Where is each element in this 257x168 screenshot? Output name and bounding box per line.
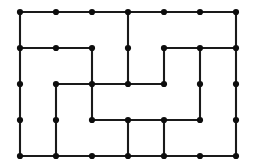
graph-vertex — [161, 45, 167, 51]
graph-vertex — [125, 45, 131, 51]
graph-vertex — [233, 45, 239, 51]
graph-vertex — [233, 153, 239, 159]
graph-vertex — [233, 9, 239, 15]
graph-vertex — [17, 9, 23, 15]
graph-vertex — [53, 9, 59, 15]
graph-vertex — [53, 117, 59, 123]
graph-vertex — [53, 153, 59, 159]
graph-vertex — [17, 117, 23, 123]
graph-vertex — [161, 9, 167, 15]
graph-vertex — [161, 153, 167, 159]
graph-vertex — [233, 117, 239, 123]
graph-vertex — [161, 117, 167, 123]
grid-graph-svg — [0, 0, 257, 168]
graph-vertex — [125, 153, 131, 159]
graph-vertex — [17, 81, 23, 87]
graph-vertex — [125, 81, 131, 87]
graph-vertex — [89, 9, 95, 15]
graph-vertex — [233, 81, 239, 87]
graph-vertex — [89, 45, 95, 51]
graph-vertex — [197, 81, 203, 87]
graph-vertex — [89, 153, 95, 159]
graph-vertex — [53, 45, 59, 51]
graph-vertex — [125, 117, 131, 123]
graph-vertex — [125, 9, 131, 15]
graph-vertex — [197, 9, 203, 15]
graph-vertex — [53, 81, 59, 87]
graph-vertex — [161, 81, 167, 87]
graph-vertex — [89, 81, 95, 87]
graph-vertex — [197, 117, 203, 123]
graph-vertex — [89, 117, 95, 123]
graph-vertex — [197, 45, 203, 51]
figure-canvas — [0, 0, 257, 168]
graph-vertex — [17, 153, 23, 159]
graph-vertex — [17, 45, 23, 51]
graph-vertex — [197, 153, 203, 159]
